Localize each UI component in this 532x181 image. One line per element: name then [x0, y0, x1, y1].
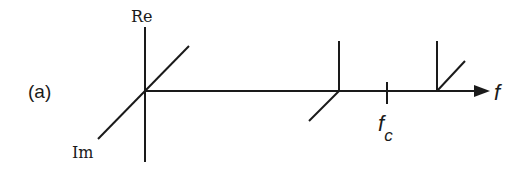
- carrier-frequency-label: fc: [378, 111, 393, 145]
- real-axis-label: Re: [131, 7, 153, 26]
- panel-label: (a): [28, 81, 51, 102]
- frequency-axis-label: f: [494, 80, 503, 105]
- upper-sideband-imag-component: [437, 61, 465, 91]
- frequency-axis-arrowhead: [474, 85, 490, 97]
- imaginary-axis: [98, 46, 189, 139]
- imaginary-axis-label: Im: [72, 143, 94, 162]
- carrier-frequency-label-subscript: c: [384, 126, 393, 145]
- lower-sideband-imag-component: [309, 91, 339, 121]
- phasor-spectrum-diagram: (a) Re Im f fc: [0, 0, 532, 181]
